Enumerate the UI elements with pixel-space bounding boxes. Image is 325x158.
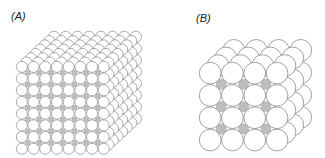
sphere bbox=[222, 129, 244, 151]
sphere bbox=[199, 129, 221, 151]
sphere bbox=[244, 129, 266, 151]
sphere bbox=[87, 96, 98, 107]
sphere bbox=[75, 108, 86, 119]
sphere bbox=[16, 132, 27, 143]
sphere bbox=[40, 73, 51, 84]
sphere bbox=[87, 85, 98, 96]
sphere bbox=[40, 108, 51, 119]
sphere bbox=[40, 120, 51, 131]
sphere bbox=[266, 62, 288, 84]
sphere bbox=[75, 132, 86, 143]
sphere bbox=[98, 85, 109, 96]
sphere bbox=[40, 85, 51, 96]
sphere bbox=[28, 85, 39, 96]
sphere bbox=[266, 85, 288, 107]
sphere bbox=[51, 108, 62, 119]
sphere bbox=[222, 85, 244, 107]
sphere bbox=[98, 61, 109, 72]
sphere bbox=[98, 96, 109, 107]
sphere bbox=[28, 108, 39, 119]
sphere bbox=[63, 73, 74, 84]
sphere bbox=[98, 120, 109, 131]
sphere bbox=[51, 85, 62, 96]
sphere bbox=[63, 132, 74, 143]
sphere bbox=[16, 73, 27, 84]
sphere bbox=[98, 73, 109, 84]
sphere bbox=[16, 85, 27, 96]
sphere bbox=[51, 120, 62, 131]
sphere bbox=[63, 85, 74, 96]
sphere bbox=[222, 62, 244, 84]
sphere bbox=[63, 108, 74, 119]
sphere bbox=[75, 61, 86, 72]
sphere bbox=[222, 107, 244, 129]
sphere bbox=[75, 120, 86, 131]
sphere bbox=[87, 73, 98, 84]
sphere bbox=[40, 143, 51, 154]
sphere bbox=[40, 61, 51, 72]
sphere bbox=[28, 120, 39, 131]
sphere bbox=[28, 143, 39, 154]
sphere bbox=[75, 85, 86, 96]
sphere bbox=[16, 108, 27, 119]
sphere bbox=[63, 61, 74, 72]
sphere bbox=[28, 61, 39, 72]
sphere bbox=[28, 96, 39, 107]
sphere bbox=[87, 132, 98, 143]
sphere bbox=[75, 73, 86, 84]
sphere bbox=[16, 120, 27, 131]
sphere bbox=[16, 61, 27, 72]
panel-a-lattice bbox=[16, 31, 141, 154]
sphere bbox=[40, 96, 51, 107]
sphere bbox=[16, 143, 27, 154]
sphere bbox=[87, 61, 98, 72]
sphere bbox=[98, 132, 109, 143]
sphere bbox=[28, 73, 39, 84]
sphere bbox=[87, 108, 98, 119]
sphere bbox=[244, 85, 266, 107]
sphere bbox=[98, 108, 109, 119]
sphere bbox=[51, 132, 62, 143]
sphere-lattice-diagram bbox=[0, 0, 325, 158]
sphere bbox=[199, 85, 221, 107]
sphere bbox=[75, 96, 86, 107]
sphere bbox=[51, 73, 62, 84]
sphere bbox=[244, 62, 266, 84]
sphere bbox=[244, 107, 266, 129]
sphere bbox=[199, 107, 221, 129]
sphere bbox=[199, 62, 221, 84]
sphere bbox=[40, 132, 51, 143]
sphere bbox=[266, 107, 288, 129]
sphere bbox=[87, 143, 98, 154]
sphere bbox=[28, 132, 39, 143]
sphere bbox=[51, 61, 62, 72]
sphere bbox=[63, 143, 74, 154]
panel-b-lattice bbox=[199, 40, 311, 151]
sphere bbox=[51, 143, 62, 154]
sphere bbox=[98, 143, 109, 154]
sphere bbox=[63, 96, 74, 107]
sphere bbox=[63, 120, 74, 131]
sphere bbox=[266, 129, 288, 151]
sphere bbox=[16, 96, 27, 107]
sphere bbox=[75, 143, 86, 154]
sphere bbox=[51, 96, 62, 107]
sphere bbox=[87, 120, 98, 131]
